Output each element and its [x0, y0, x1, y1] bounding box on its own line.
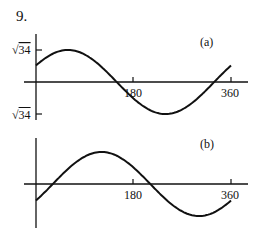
- chart-b: 180 360 (b): [24, 137, 248, 228]
- chart-a: √34 180 360 (a): [12, 34, 248, 120]
- chart-b-xlabel-180: 180: [124, 188, 142, 202]
- chart-b-title: (b): [200, 137, 214, 151]
- chart-a-title: (a): [200, 35, 213, 49]
- chart-a-ylabel-top: √34: [12, 43, 31, 57]
- chart-b-xlabel-360: 360: [221, 188, 239, 202]
- chart-a-ylabel-bottom: √34: [12, 108, 31, 123]
- chart-a-xlabel-180: 180: [124, 86, 142, 100]
- chart-canvas: √34 180 360 (a) 180 360 (b): [0, 0, 262, 241]
- chart-a-xlabel-360: 360: [221, 86, 239, 100]
